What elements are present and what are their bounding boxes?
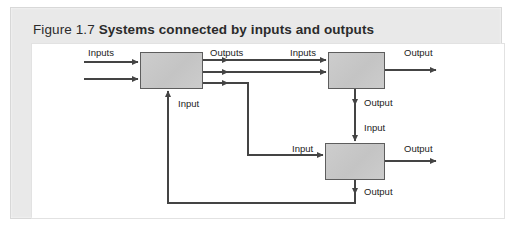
figure-title: Systems connected by inputs and outputs bbox=[99, 22, 374, 37]
figure-caption: Figure 1.7 Systems connected by inputs a… bbox=[33, 19, 493, 41]
label-output-system2-right: Output bbox=[404, 47, 433, 58]
system-box-2[interactable] bbox=[328, 52, 385, 89]
label-inputs-system2: Inputs bbox=[290, 47, 316, 58]
system-box-3[interactable] bbox=[325, 143, 385, 180]
label-outputs-system1: Outputs bbox=[210, 47, 243, 58]
label-input-system1-bottom: Input bbox=[178, 98, 199, 109]
label-input-system3-top: Input bbox=[364, 122, 385, 133]
label-inputs-system1: Inputs bbox=[88, 47, 114, 58]
diagram-canvas bbox=[31, 43, 505, 219]
label-output-system3-bottom: Output bbox=[364, 186, 393, 197]
figure-screenshot: Figure 1.7 Systems connected by inputs a… bbox=[0, 0, 520, 235]
label-output-system3-right: Output bbox=[404, 143, 433, 154]
label-output-system2-bottom: Output bbox=[364, 97, 393, 108]
label-input-system3-left: Input bbox=[292, 143, 313, 154]
system-box-1[interactable] bbox=[140, 52, 203, 89]
figure-panel: Figure 1.7 Systems connected by inputs a… bbox=[10, 7, 502, 219]
figure-number: Figure 1.7 bbox=[33, 22, 95, 37]
